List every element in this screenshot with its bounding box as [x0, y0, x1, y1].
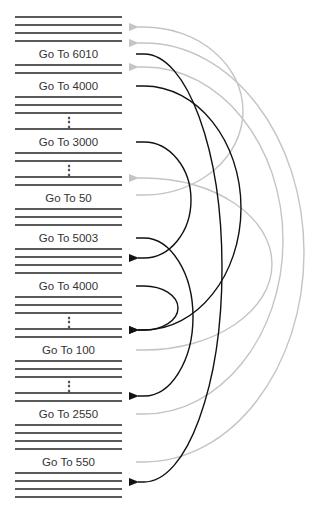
forward-jump-arrow — [136, 86, 241, 330]
goto-label: Go To 2550 — [39, 408, 98, 420]
goto-instruction-labels: Go To 6010Go To 4000Go To 3000Go To 50Go… — [39, 48, 98, 468]
goto-jump-diagram: ⋮⋮⋮⋮ Go To 6010Go To 4000Go To 3000Go To… — [0, 0, 321, 507]
forward-jump-arrow — [136, 286, 178, 330]
ellipsis-icon: ⋮ — [63, 315, 75, 329]
goto-label: Go To 5003 — [39, 232, 98, 244]
goto-label: Go To 4000 — [39, 80, 98, 92]
forward-jump-arrows — [136, 54, 241, 482]
goto-label: Go To 50 — [45, 192, 91, 204]
goto-label: Go To 4000 — [39, 280, 98, 292]
goto-label: Go To 550 — [42, 456, 95, 468]
backward-jump-arrows — [136, 27, 304, 462]
forward-jump-arrow — [136, 142, 191, 258]
ellipsis-icon: ⋮ — [63, 163, 75, 177]
backward-jump-arrow — [136, 43, 304, 462]
goto-label: Go To 6010 — [39, 48, 98, 60]
goto-label: Go To 3000 — [39, 136, 98, 148]
goto-label: Go To 100 — [42, 344, 95, 356]
ellipsis-icon: ⋮ — [63, 379, 75, 393]
backward-jump-arrow — [136, 178, 272, 350]
forward-jump-arrow — [136, 238, 193, 396]
ellipsis-icon: ⋮ — [63, 115, 75, 129]
